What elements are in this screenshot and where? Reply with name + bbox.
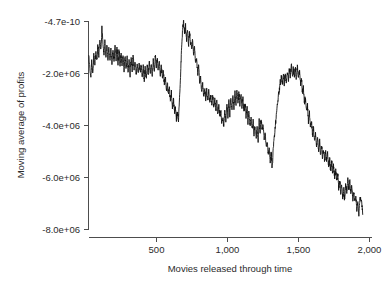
x-tick-label-2: 1,500	[287, 244, 311, 255]
x-tick-label-3: 2,000	[358, 244, 382, 255]
y-tick-label-2: -4.0e+06	[42, 120, 80, 131]
x-tick-label-1: 1,000	[216, 244, 240, 255]
y-tick-label-0: -4.7e-10	[45, 16, 80, 27]
line-chart-plot: -4.7e-10 -2.0e+06 -4.0e+06 -6.0e+06 -8.0…	[0, 0, 386, 282]
x-tick-label-0: 500	[149, 244, 165, 255]
y-axis-title: Moving average of profits	[15, 71, 26, 178]
series-line-moving-average	[89, 20, 363, 216]
chart-figure: -4.7e-10 -2.0e+06 -4.0e+06 -6.0e+06 -8.0…	[0, 0, 386, 282]
x-axis-title: Movies released through time	[168, 263, 293, 274]
y-tick-label-1: -2.0e+06	[42, 68, 80, 79]
y-tick-marks	[84, 22, 89, 230]
y-tick-label-3: -6.0e+06	[42, 172, 80, 183]
y-tick-label-4: -8.0e+06	[42, 224, 80, 235]
x-tick-marks	[157, 238, 370, 243]
